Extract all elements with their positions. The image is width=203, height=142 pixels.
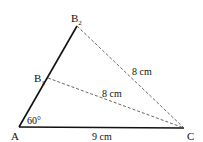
triangle-diagram: A C B2 B1 60° 9 cm 8 cm 8 cm [0,0,203,142]
dashed-b1-c [48,78,184,128]
label-c: C [187,130,194,142]
dashed-b2-c [77,26,184,128]
side-a-c [19,127,184,128]
label-b1: B1 [34,72,45,87]
label-b2: B2 [71,12,82,27]
length-ac: 9 cm [92,131,112,142]
length-b2c: 8 cm [132,66,152,77]
side-a-b2 [19,26,77,127]
angle-label: 60° [27,115,41,126]
length-b1c: 8 cm [102,88,122,99]
label-a: A [11,130,19,142]
